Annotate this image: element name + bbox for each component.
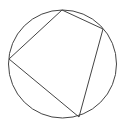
circumscribed-circle [9, 10, 117, 118]
diagram-canvas [0, 0, 127, 131]
